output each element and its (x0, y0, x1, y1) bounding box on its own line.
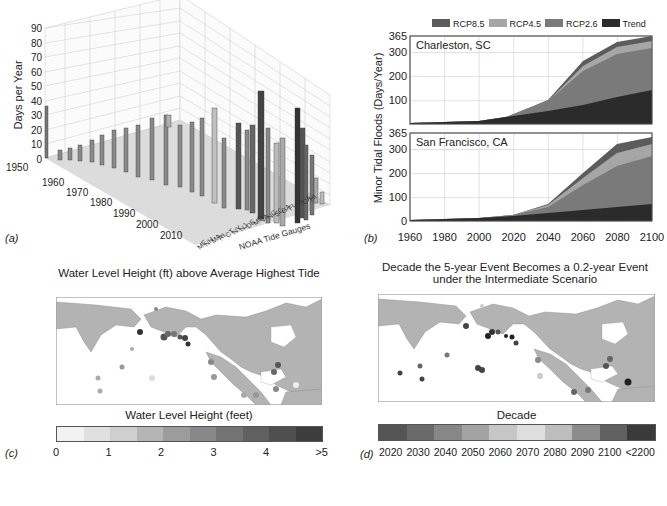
panel-c: Water Level Height (ft) above Average Hi… (0, 258, 335, 506)
subplot-san-francisco-title: San Francisco, CA (416, 136, 508, 148)
svg-text:50: 50 (31, 81, 43, 92)
svg-text:300: 300 (389, 46, 407, 58)
panel-d-tag: (d) (360, 448, 373, 460)
panel-a-tag: (a) (5, 232, 18, 244)
svg-text:40: 40 (31, 96, 43, 107)
panel-a: 90 80 70 60 50 40 30 20 10 0 Days per Ye… (0, 0, 340, 258)
svg-text:2080: 2080 (605, 231, 629, 243)
svg-text:90: 90 (31, 23, 43, 34)
svg-text:60: 60 (31, 67, 43, 78)
panel-d-colorbar (378, 424, 656, 441)
panel-c-title: Water Level Height (ft) above Average Hi… (56, 267, 322, 279)
svg-text:0: 0 (401, 215, 407, 227)
svg-text:70: 70 (31, 52, 43, 63)
svg-text:2100: 2100 (640, 231, 664, 243)
panel-d-title: Decade the 5-year Event Becomes a 0.2-ye… (375, 261, 655, 285)
panel-d: Decade the 5-year Event Becomes a 0.2-ye… (335, 258, 667, 506)
panel-b: RCP8.5 RCP4.5 RCP2.6 Trend 100 200 300 3… (340, 0, 667, 258)
svg-text:1960: 1960 (42, 177, 65, 188)
svg-text:2020: 2020 (501, 231, 525, 243)
svg-text:1980: 1980 (432, 231, 456, 243)
panel-c-colorbar-ticks: 01 23 4>5 (53, 446, 328, 458)
subplot-san-francisco-y-ticks: 0 100 200 300 365 (389, 127, 407, 227)
svg-text:1980: 1980 (90, 197, 113, 208)
svg-text:30: 30 (31, 110, 43, 121)
svg-text:100: 100 (389, 191, 407, 203)
svg-text:2000: 2000 (467, 231, 491, 243)
panel-d-map (378, 294, 655, 402)
svg-text:365: 365 (389, 127, 407, 139)
svg-text:2040: 2040 (536, 231, 560, 243)
svg-text:2010: 2010 (160, 230, 183, 241)
svg-text:10: 10 (31, 139, 43, 150)
panel-a-3d-bar-chart: 90 80 70 60 50 40 30 20 10 0 Days per Ye… (0, 0, 340, 258)
subplot-charleston-y-ticks: 100 200 300 365 (389, 30, 407, 106)
svg-text:100: 100 (389, 94, 407, 106)
svg-text:2060: 2060 (571, 231, 595, 243)
panel-b-area-charts: 100 200 300 365 Charleston, SC 0 100 200 (340, 0, 667, 258)
svg-text:1990: 1990 (113, 208, 136, 219)
svg-text:80: 80 (31, 38, 43, 49)
svg-text:0: 0 (36, 154, 42, 165)
svg-text:365: 365 (389, 30, 407, 42)
panel-d-colorbar-label: Decade (378, 409, 655, 421)
panel-a-y-ticks: 90 80 70 60 50 40 30 20 10 0 (31, 23, 43, 165)
svg-text:200: 200 (389, 167, 407, 179)
panel-a-y-label: Days per Year (12, 60, 24, 129)
panel-c-map (56, 297, 322, 405)
svg-text:2000: 2000 (136, 219, 159, 230)
svg-text:1970: 1970 (66, 187, 89, 198)
panel-b-tag: (b) (364, 232, 377, 244)
svg-text:300: 300 (389, 143, 407, 155)
panel-c-colorbar (56, 426, 323, 442)
panel-b-x-ticks: 1960 1980 2000 2020 2040 2060 2080 2100 (398, 231, 664, 243)
panel-c-tag: (c) (5, 447, 18, 459)
panel-d-colorbar-ticks: 20202030 20402050 20602070 20802090 2100… (379, 446, 655, 458)
svg-text:20: 20 (31, 125, 43, 136)
svg-text:1960: 1960 (398, 231, 422, 243)
panel-c-colorbar-label: Water Level Height (feet) (56, 409, 322, 421)
subplot-charleston-title: Charleston, SC (416, 39, 491, 51)
svg-text:1950: 1950 (6, 162, 29, 173)
panel-b-y-label: Minor Tidal Floods (Days/Year) (372, 53, 384, 204)
svg-text:200: 200 (389, 70, 407, 82)
